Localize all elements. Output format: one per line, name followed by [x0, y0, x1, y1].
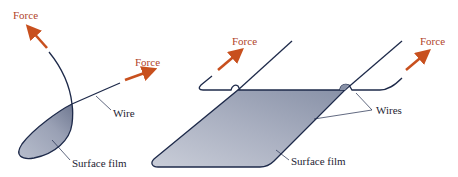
left-force-top-label: Force [13, 9, 38, 21]
right-hook-wire [340, 78, 402, 90]
left-wire-right [72, 83, 120, 104]
right-film-label: Surface film [291, 155, 346, 167]
left-figure: Force Force Wire Surface film [13, 9, 160, 169]
left-force-right-label: Force [135, 56, 160, 68]
right-figure: Force Force Wires Surface film [152, 35, 445, 167]
wires-label: Wires [376, 104, 402, 116]
left-force-arrow-top [31, 30, 47, 48]
left-hook-wire [199, 76, 240, 90]
right-force-arrow-left [218, 53, 238, 70]
right-wire-diagonal [345, 41, 402, 90]
left-surface-film [19, 104, 73, 158]
surface-tension-diagram: Force Force Wire Surface film Force Forc… [0, 0, 458, 177]
wires-leader-line-1 [356, 93, 372, 110]
right-force-right-label: Force [420, 35, 445, 47]
wire-label: Wire [113, 107, 135, 119]
left-wire-diagonal [238, 41, 292, 90]
left-force-arrow-right [125, 71, 150, 80]
right-force-left-label: Force [232, 35, 257, 47]
left-film-label: Surface film [72, 157, 127, 169]
wire-leader-line [96, 96, 111, 110]
left-wire-upper [49, 52, 72, 104]
right-force-arrow-right [406, 54, 425, 70]
